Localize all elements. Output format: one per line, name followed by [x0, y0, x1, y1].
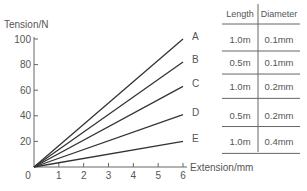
y-axis-label: Tension/N	[4, 19, 48, 30]
x-tick-label: 2	[81, 170, 87, 181]
series-label-d: D	[192, 107, 199, 118]
series-label-e: E	[192, 133, 199, 144]
x-tick-label: 1	[56, 170, 62, 181]
y-tick-label: 80	[20, 59, 32, 70]
table-cell-diameter: 0.2mm	[264, 81, 293, 92]
series-line-d	[34, 115, 183, 167]
table-cell-diameter: 0.1mm	[264, 57, 293, 68]
table-cell-length: 0.5m	[229, 110, 250, 121]
series-line-a	[34, 39, 183, 167]
series-label-b: B	[192, 54, 199, 65]
x-axis-label: Extension/mm	[190, 162, 253, 173]
table-cell-diameter: 0.1mm	[264, 34, 293, 45]
table-cell-length: 1.0m	[229, 136, 250, 147]
y-tick-label: 100	[14, 34, 31, 45]
x-tick-label: 6	[180, 170, 186, 181]
tension-extension-chart: Tension/NExtension/mm204060801000123456A…	[0, 0, 307, 191]
x-tick-label: 4	[131, 170, 137, 181]
series-line-c	[34, 86, 183, 167]
table-cell-diameter: 0.4mm	[264, 136, 293, 147]
series-label-c: C	[192, 78, 199, 89]
series-label-a: A	[192, 31, 199, 42]
table-cell-length: 1.0m	[229, 34, 250, 45]
table-cell-diameter: 0.2mm	[264, 110, 293, 121]
y-tick-label: 60	[20, 85, 32, 96]
x-tick-label: 3	[106, 170, 112, 181]
table-cell-length: 1.0m	[229, 81, 250, 92]
table-header-diameter: Diameter	[261, 9, 298, 19]
table-cell-length: 0.5m	[229, 57, 250, 68]
series-line-b	[34, 62, 183, 167]
y-tick-label: 20	[20, 136, 32, 147]
table-header-length: Length	[226, 9, 254, 19]
x-tick-label: 0	[25, 170, 31, 181]
x-tick-label: 5	[155, 170, 161, 181]
y-tick-label: 40	[20, 110, 32, 121]
